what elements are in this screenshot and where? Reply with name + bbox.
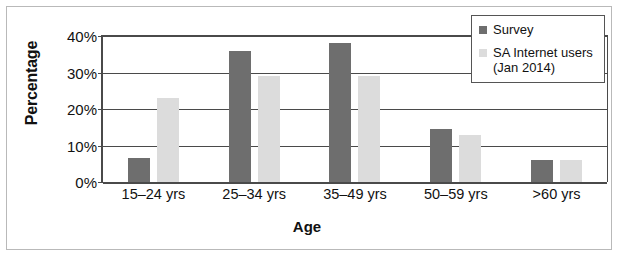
- legend-label-survey: Survey: [493, 22, 533, 37]
- bar[interactable]: [560, 160, 582, 182]
- bar[interactable]: [531, 160, 553, 182]
- bar[interactable]: [229, 51, 251, 182]
- bar-group: [305, 36, 406, 182]
- legend-label-line1: SA Internet users: [493, 45, 593, 60]
- bar[interactable]: [358, 76, 380, 182]
- bar[interactable]: [430, 129, 452, 182]
- legend-swatch-survey-icon: [479, 26, 487, 34]
- y-axis-title: Percentage: [23, 13, 43, 153]
- legend-item-sa-internet-users[interactable]: SA Internet users (Jan 2014): [479, 45, 597, 75]
- y-axis-tick-label: 40%: [67, 28, 97, 45]
- bar[interactable]: [329, 43, 351, 182]
- y-axis-tick-label: 10%: [67, 137, 97, 154]
- y-axis-tick-label: 20%: [67, 101, 97, 118]
- bar[interactable]: [459, 135, 481, 182]
- bar-group: [103, 36, 204, 182]
- bar[interactable]: [258, 76, 280, 182]
- bar[interactable]: [128, 158, 150, 182]
- chart-figure: Percentage Age 0%10%20%30%40% 15–24 yrs2…: [6, 6, 612, 250]
- legend-label-line2: (Jan 2014): [493, 60, 555, 75]
- bar-group: [204, 36, 305, 182]
- y-axis-tick-label: 30%: [67, 64, 97, 81]
- legend-item-survey[interactable]: Survey: [479, 22, 597, 37]
- x-axis-line: [103, 182, 607, 184]
- x-axis-title: Age: [7, 218, 607, 235]
- x-axis-tick-label: >60 yrs: [487, 186, 619, 202]
- legend-label-sa-internet-users: SA Internet users (Jan 2014): [493, 45, 593, 75]
- legend-swatch-sa-internet-users-icon: [479, 49, 487, 57]
- chart-legend[interactable]: Survey SA Internet users (Jan 2014): [471, 15, 605, 83]
- bar[interactable]: [157, 98, 179, 182]
